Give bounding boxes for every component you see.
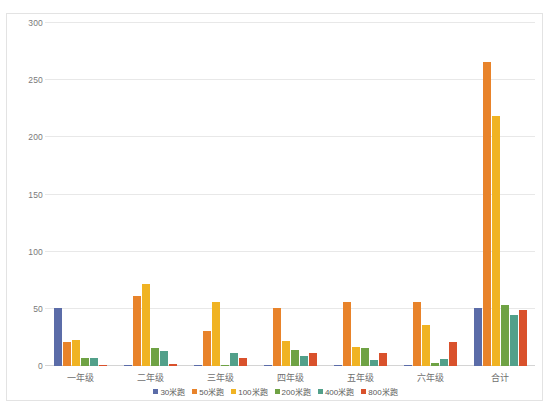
x-axis: 一年级二年级三年级四年级五年级六年级合计	[45, 368, 535, 388]
legend-label: 200米跑	[282, 386, 311, 397]
y-axis-tick-label: 250	[28, 75, 43, 85]
bar[interactable]	[264, 365, 272, 366]
bar[interactable]	[72, 340, 80, 366]
bar[interactable]	[519, 310, 527, 366]
legend-label: 400米跑	[325, 386, 354, 397]
bar[interactable]	[309, 353, 317, 366]
bar-group	[465, 23, 535, 366]
bar[interactable]	[273, 308, 281, 366]
x-axis-tick-label: 五年级	[325, 368, 395, 388]
bar[interactable]	[300, 356, 308, 366]
legend-label: 100米跑	[238, 386, 267, 397]
legend-item[interactable]: 800米跑	[361, 386, 397, 397]
y-axis-tick-label: 100	[28, 247, 43, 257]
bar-groups	[45, 23, 535, 366]
bar[interactable]	[449, 342, 457, 366]
bar[interactable]	[431, 363, 439, 366]
legend-item[interactable]: 50米跑	[192, 386, 224, 397]
legend-swatch-icon	[153, 389, 158, 394]
bar[interactable]	[474, 308, 482, 366]
bar-group	[395, 23, 465, 366]
y-axis-tick-label: 300	[28, 18, 43, 28]
bar[interactable]	[343, 302, 351, 366]
bar[interactable]	[361, 348, 369, 366]
bar[interactable]	[282, 341, 290, 366]
bar[interactable]	[151, 348, 159, 366]
legend-item[interactable]: 30米跑	[153, 386, 185, 397]
y-axis: 050100150200250300	[13, 23, 43, 366]
x-axis-tick-label: 六年级	[395, 368, 465, 388]
bar[interactable]	[230, 353, 238, 366]
bar-chart-screenshot: 050100150200250300 一年级二年级三年级四年级五年级六年级合计 …	[0, 0, 550, 414]
legend: 30米跑50米跑100米跑200米跑400米跑800米跑	[7, 386, 544, 397]
y-axis-tick-label: 200	[28, 132, 43, 142]
x-axis-tick-label: 三年级	[185, 368, 255, 388]
bar[interactable]	[413, 302, 421, 366]
bar[interactable]	[142, 284, 150, 366]
bar[interactable]	[379, 353, 387, 366]
legend-label: 30米跑	[160, 386, 185, 397]
legend-swatch-icon	[275, 389, 280, 394]
legend-swatch-icon	[361, 389, 366, 394]
bar[interactable]	[352, 347, 360, 366]
bar[interactable]	[440, 359, 448, 366]
bar-group	[45, 23, 115, 366]
bar[interactable]	[404, 365, 412, 366]
bar[interactable]	[370, 360, 378, 366]
plot-area	[45, 23, 535, 366]
bar[interactable]	[54, 308, 62, 366]
bar[interactable]	[81, 358, 89, 366]
x-axis-tick-label: 四年级	[255, 368, 325, 388]
bar[interactable]	[334, 365, 342, 366]
y-axis-tick-label: 50	[33, 304, 43, 314]
bar[interactable]	[90, 358, 98, 366]
legend-label: 50米跑	[199, 386, 224, 397]
legend-item[interactable]: 400米跑	[318, 386, 354, 397]
chart-frame: 050100150200250300 一年级二年级三年级四年级五年级六年级合计 …	[6, 13, 543, 401]
bar[interactable]	[203, 331, 211, 366]
legend-swatch-icon	[318, 389, 323, 394]
bar-group	[255, 23, 325, 366]
bar[interactable]	[194, 365, 202, 366]
bar[interactable]	[160, 351, 168, 366]
bar[interactable]	[422, 325, 430, 366]
bar[interactable]	[212, 302, 220, 366]
bar-group	[185, 23, 255, 366]
bar[interactable]	[63, 342, 71, 366]
legend-swatch-icon	[192, 389, 197, 394]
bar[interactable]	[221, 365, 229, 366]
x-axis-tick-label: 合计	[465, 368, 535, 388]
bar[interactable]	[133, 296, 141, 366]
y-axis-tick-label: 0	[38, 361, 43, 371]
bar[interactable]	[510, 315, 518, 366]
bar[interactable]	[501, 305, 509, 366]
legend-label: 800米跑	[368, 386, 397, 397]
x-axis-tick-label: 二年级	[115, 368, 185, 388]
bar[interactable]	[291, 350, 299, 366]
bar-group	[115, 23, 185, 366]
legend-swatch-icon	[231, 389, 236, 394]
bar[interactable]	[483, 62, 491, 366]
y-axis-tick-label: 150	[28, 190, 43, 200]
bar[interactable]	[492, 116, 500, 366]
bar[interactable]	[99, 365, 107, 366]
bar[interactable]	[124, 365, 132, 366]
bar[interactable]	[169, 364, 177, 366]
bar[interactable]	[239, 358, 247, 366]
bar-group	[325, 23, 395, 366]
legend-item[interactable]: 200米跑	[275, 386, 311, 397]
legend-item[interactable]: 100米跑	[231, 386, 267, 397]
x-axis-tick-label: 一年级	[45, 368, 115, 388]
